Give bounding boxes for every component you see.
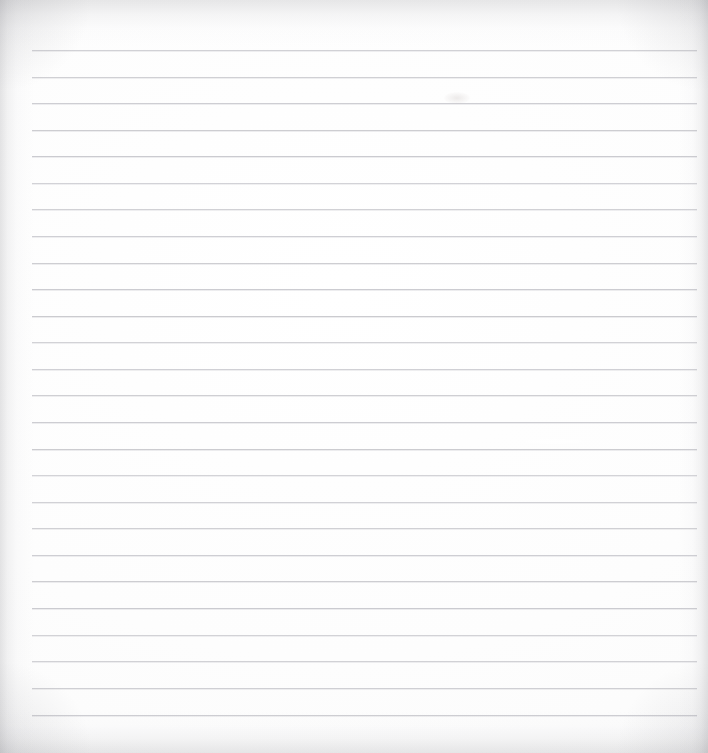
paper-sheet [0, 0, 708, 753]
rule-line [32, 715, 697, 716]
page-body-text [32, 50, 697, 715]
scanned-page-canvas [0, 0, 708, 753]
